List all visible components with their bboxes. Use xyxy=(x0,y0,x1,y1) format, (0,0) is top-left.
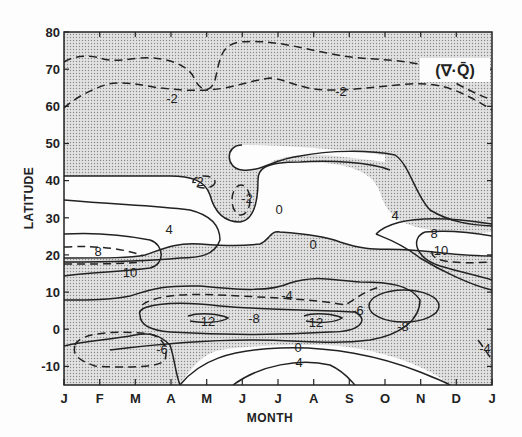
x-tick-label: N xyxy=(416,391,425,406)
contour-label: -2 xyxy=(335,84,347,99)
contour-label: 10 xyxy=(123,265,137,280)
contour-label: 4 xyxy=(295,355,302,370)
y-tick-label: 80 xyxy=(46,25,60,40)
y-axis-title: LATITUDE xyxy=(22,167,36,229)
contour-label: -6 xyxy=(156,342,168,357)
y-tick-label: 40 xyxy=(46,173,60,188)
x-tick-label: A xyxy=(309,391,319,406)
contour-label: 0 xyxy=(294,340,301,355)
contour-label: 4 xyxy=(165,222,172,237)
x-tick-label: S xyxy=(345,391,354,406)
contour-label: -4 xyxy=(479,341,491,356)
y-tick-label: 50 xyxy=(46,136,60,151)
contour-label: 8 xyxy=(94,244,101,259)
chart-title: (∇·Q̄) xyxy=(435,61,474,79)
contour-label: -8 xyxy=(248,311,260,326)
contour-label: -2 xyxy=(192,174,204,189)
contour-label: -2 xyxy=(166,91,178,106)
x-tick-labels: J F M A M J J A S O N D J xyxy=(60,391,495,406)
y-tick-label: 30 xyxy=(46,211,60,226)
contour-label: -6 xyxy=(352,303,364,318)
y-tick-label: 20 xyxy=(46,248,60,263)
contour-label: -4 xyxy=(281,288,293,303)
x-tick-label: J xyxy=(60,391,67,406)
y-tick-label: 0 xyxy=(53,322,60,337)
x-tick-label: M xyxy=(201,391,212,406)
x-tick-label: J xyxy=(239,391,246,406)
x-tick-label: F xyxy=(96,391,104,406)
contour-label: -8 xyxy=(397,319,409,334)
contour-label: 10 xyxy=(434,243,448,258)
contour-label: 0 xyxy=(275,202,282,217)
x-tick-label: O xyxy=(380,391,390,406)
x-axis-title: MONTH xyxy=(247,411,294,425)
contour-label: 12 xyxy=(309,315,323,330)
x-tick-label: D xyxy=(452,391,461,406)
y-tick-label: 10 xyxy=(46,285,60,300)
contour-label: 0 xyxy=(309,237,316,252)
x-tick-label: A xyxy=(166,391,176,406)
x-tick-label: J xyxy=(488,391,495,406)
contour-label: 4 xyxy=(391,208,398,223)
y-tick-label: -10 xyxy=(41,359,60,374)
contour-label: -2 xyxy=(241,191,253,206)
contour-chart: J F M A M J J A S O N D J MONTH 80 70 60… xyxy=(0,0,522,437)
contour-label: 12 xyxy=(201,314,215,329)
y-tick-labels: 80 70 60 50 40 30 20 10 0 -10 xyxy=(41,25,60,374)
y-tick-label: 70 xyxy=(46,62,60,77)
x-tick-label: J xyxy=(274,391,281,406)
x-tick-label: M xyxy=(130,391,141,406)
y-tick-label: 60 xyxy=(46,99,60,114)
contour-label: 8 xyxy=(430,226,437,241)
